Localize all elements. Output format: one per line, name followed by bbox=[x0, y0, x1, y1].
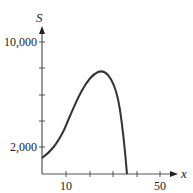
x-axis-arrow-icon bbox=[170, 171, 178, 177]
y-axis-arrow-icon bbox=[39, 26, 45, 34]
y-axis-label: S bbox=[36, 10, 43, 25]
chart: S x 10,000 2,000 10 50 bbox=[0, 0, 193, 193]
x-tick-label-50: 50 bbox=[154, 179, 166, 193]
y-tick-label-2000: 2,000 bbox=[10, 140, 37, 154]
data-curve bbox=[42, 71, 127, 174]
x-axis-label: x bbox=[180, 166, 187, 181]
y-tick-label-10000: 10,000 bbox=[4, 35, 37, 49]
x-tick-label-10: 10 bbox=[60, 179, 72, 193]
